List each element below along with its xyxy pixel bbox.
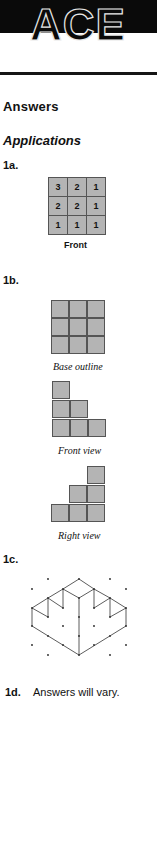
front-view-figure xyxy=(52,381,108,438)
grid-cell: 1 xyxy=(87,178,105,196)
answers-heading: Answers xyxy=(3,99,59,114)
question-1a-label: 1a. xyxy=(3,159,18,171)
grid-cell: 1 xyxy=(49,216,67,234)
front-count-grid: 3 2 1 2 2 1 1 1 1 xyxy=(48,177,106,235)
grid-cell: 1 xyxy=(68,216,86,234)
svg-text:ACE: ACE xyxy=(30,0,126,48)
front-caption: Front xyxy=(64,240,87,250)
right-view-caption: Right view xyxy=(58,530,101,541)
front-view-caption: Front view xyxy=(58,445,101,456)
question-1b-label: 1b. xyxy=(3,274,19,286)
header-rule xyxy=(0,72,157,75)
grid-cell: 2 xyxy=(49,197,67,215)
question-1d-label: 1d. xyxy=(5,686,21,698)
question-1d-answer: Answers will vary. xyxy=(33,686,120,698)
grid-cell: 1 xyxy=(87,197,105,215)
applications-heading: Applications xyxy=(3,133,81,148)
question-1c-label: 1c. xyxy=(3,553,18,565)
ace-logo: ACE xyxy=(0,0,157,48)
right-view-figure xyxy=(51,466,107,523)
base-outline-figure xyxy=(51,300,107,356)
grid-cell: 3 xyxy=(49,178,67,196)
grid-cell: 2 xyxy=(68,178,86,196)
isometric-drawing xyxy=(0,570,157,665)
base-outline-caption: Base outline xyxy=(53,361,103,372)
grid-cell: 1 xyxy=(87,216,105,234)
grid-cell: 2 xyxy=(68,197,86,215)
